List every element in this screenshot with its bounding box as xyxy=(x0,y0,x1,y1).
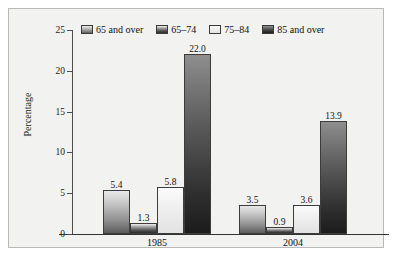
y-axis-line xyxy=(72,30,73,235)
y-tick-mark xyxy=(67,193,72,194)
chart-figure: 65 and over 65–74 75–84 85 and over Perc… xyxy=(0,0,394,258)
bar: 5.8 xyxy=(157,187,184,234)
y-tick: 20 xyxy=(39,66,65,76)
y-tick-label: 5 xyxy=(43,188,65,198)
y-tick-mark xyxy=(67,71,72,72)
y-tick: 5 xyxy=(39,188,65,198)
x-axis-label-1985: 1985 xyxy=(127,237,187,248)
y-tick-mark xyxy=(67,112,72,113)
bar: 1.3 xyxy=(130,223,157,234)
bar-value-label: 5.4 xyxy=(111,180,123,190)
y-tick-mark xyxy=(67,152,72,153)
chart-frame: 65 and over 65–74 75–84 85 and over Perc… xyxy=(8,8,384,248)
y-tick-label: 10 xyxy=(43,147,65,157)
legend-swatch-icon-75-84 xyxy=(209,25,221,34)
bar: 13.9 xyxy=(320,121,347,234)
y-tick-mark xyxy=(67,234,72,235)
bar: 5.4 xyxy=(103,190,130,234)
bar: 3.5 xyxy=(239,205,266,234)
bar-group-2004: 3.50.93.613.9 xyxy=(239,30,347,234)
y-tick-label: 0 xyxy=(43,229,65,239)
y-tick-mark xyxy=(67,30,72,31)
bar: 3.6 xyxy=(293,205,320,234)
bar-value-label: 3.6 xyxy=(301,195,313,205)
legend-swatch-icon-65-and-over xyxy=(81,25,93,34)
bar-value-label: 3.5 xyxy=(247,195,259,205)
bar-group-1985: 5.41.35.822.0 xyxy=(103,30,211,234)
bar-value-label: 0.9 xyxy=(274,217,286,227)
y-tick: 10 xyxy=(39,147,65,157)
y-axis-title: Percentage xyxy=(22,75,33,155)
bar-value-label: 5.8 xyxy=(165,177,177,187)
x-axis-line xyxy=(59,234,389,235)
y-tick: 25 xyxy=(39,25,65,35)
y-tick-label: 15 xyxy=(43,107,65,117)
bar-value-label: 13.9 xyxy=(325,111,342,121)
x-axis-label-2004: 2004 xyxy=(263,237,323,248)
y-tick-label: 25 xyxy=(43,25,65,35)
bar-value-label: 22.0 xyxy=(189,44,206,54)
bar: 0.9 xyxy=(266,227,293,234)
y-tick: 15 xyxy=(39,107,65,117)
y-tick: 0 xyxy=(39,229,65,239)
bar: 22.0 xyxy=(184,54,211,234)
y-tick-label: 20 xyxy=(43,66,65,76)
bar-value-label: 1.3 xyxy=(138,213,150,223)
